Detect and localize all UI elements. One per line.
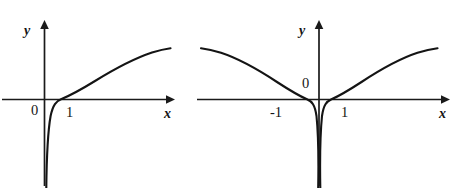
- x-axis-label-left: x: [163, 106, 171, 121]
- x-axis-arrowhead-left: [166, 95, 175, 104]
- y-axis-arrowhead-right: [315, 20, 324, 29]
- y-axis-label-left: y: [22, 23, 31, 38]
- graph-panel-right: y x 0 -1 1: [195, 0, 463, 188]
- origin-label-right: 0: [302, 75, 309, 91]
- curve-ln-abs-x-left-branch: [201, 48, 318, 188]
- x-axis-label-right: x: [438, 106, 446, 121]
- curve-ln-x: [46, 48, 170, 188]
- y-axis-arrowhead-left: [40, 20, 49, 29]
- x-tick-label-one-right: 1: [341, 104, 348, 120]
- origin-label-left: 0: [31, 102, 38, 118]
- graph-panel-left: y x 0 1: [0, 0, 200, 188]
- x-tick-label-one-left: 1: [66, 104, 73, 120]
- x-tick-label-negative-one-right: -1: [270, 104, 282, 120]
- curve-ln-abs-x-right-branch: [320, 48, 437, 188]
- graph-svg-left: y x 0 1: [0, 0, 200, 188]
- y-axis-label-right: y: [297, 23, 306, 38]
- figure-root: y x 0 1 y x 0 -1 1: [0, 0, 463, 188]
- graph-svg-right: y x 0 -1 1: [195, 0, 463, 188]
- x-axis-arrowhead-right: [441, 95, 450, 104]
